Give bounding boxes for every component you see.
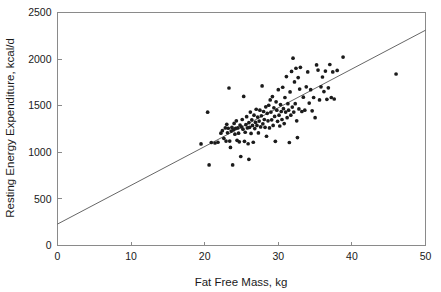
data-point [268,126,272,130]
data-point [224,139,228,143]
data-point [206,110,210,114]
data-point [242,95,246,99]
data-point [271,124,275,128]
data-point [254,120,258,124]
data-point [245,115,249,119]
data-point [225,122,229,126]
data-point [226,131,230,135]
data-point [289,113,293,117]
data-point [290,105,294,109]
chart-canvas: 01020304050 05001000150020002500 Fat Fre… [0,0,441,292]
y-axis-ticks [58,13,62,246]
data-point [227,86,231,90]
data-point [274,139,278,143]
data-point [269,110,273,114]
data-point [312,96,316,100]
data-point [303,108,307,112]
data-point [207,163,211,167]
data-point [251,140,255,144]
data-point [319,85,323,89]
data-point [231,163,235,167]
data-point [282,107,286,111]
data-point [297,107,301,111]
data-point [243,139,247,143]
data-point [276,88,280,92]
data-point [288,90,292,94]
data-point [285,75,289,79]
data-point [234,119,238,123]
data-point [292,110,296,114]
data-point [241,127,245,131]
data-point [216,140,220,144]
data-point [394,72,398,76]
data-point [341,55,345,59]
x-tick-label-30: 30 [272,250,284,262]
x-tick-label-40: 40 [346,250,358,262]
y-axis-tick-labels: 05001000150020002500 [28,6,52,251]
data-point [265,111,269,115]
data-point [315,63,319,67]
data-point [335,69,339,73]
data-point [267,103,271,107]
data-point [229,146,233,150]
data-point [310,109,314,113]
data-point [274,100,278,104]
data-point [247,121,251,125]
x-axis-tick-labels: 01020304050 [55,250,432,262]
data-point [243,130,247,134]
data-point [287,141,291,145]
data-point [275,108,279,112]
data-point [316,68,320,72]
data-point [209,141,213,145]
data-point [253,127,257,131]
data-point [257,119,261,123]
data-point [299,65,303,69]
data-point [262,118,266,122]
y-tick-label-2500: 2500 [28,6,52,18]
data-point [254,107,258,111]
data-point [318,98,322,102]
data-point [237,131,241,135]
x-tick-label-20: 20 [199,250,211,262]
data-point [249,132,253,136]
data-point [285,116,289,120]
data-point [248,110,252,114]
data-point [325,98,329,102]
data-point [331,70,335,74]
data-point [321,75,325,79]
data-point [277,113,281,117]
data-point [256,115,260,119]
data-point [293,80,297,84]
data-point [326,86,330,90]
data-point [313,116,317,120]
data-point [251,124,255,128]
data-point [296,136,300,140]
y-tick-label-1500: 1500 [28,99,52,111]
data-point [261,122,265,126]
y-axis-title: Resting Energy Expenditure, kcal/d [4,38,16,218]
data-point [304,85,308,89]
data-point [199,142,203,146]
data-point [283,96,287,100]
y-tick-label-1000: 1000 [28,146,52,158]
data-point [324,69,328,73]
data-point [246,142,250,146]
data-point [293,102,297,106]
x-tick-label-10: 10 [125,250,137,262]
data-point [273,115,277,119]
data-point [280,118,284,122]
data-point [322,90,326,94]
data-point [252,113,256,117]
data-point [272,106,276,110]
x-tick-label-0: 0 [55,250,61,262]
data-point [281,85,285,89]
data-point [296,76,300,80]
data-point [332,97,336,101]
data-point [239,155,243,159]
data-point [263,125,267,129]
data-point [287,108,291,112]
data-point [247,157,251,161]
data-point [328,63,332,67]
data-point [270,118,274,122]
data-point [301,95,305,99]
